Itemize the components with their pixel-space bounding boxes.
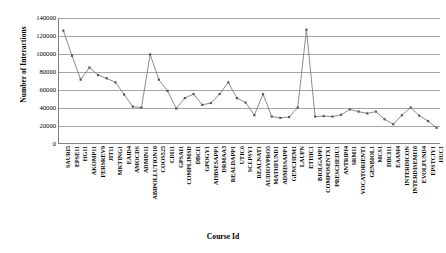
data-point-marker	[123, 93, 125, 95]
x-tick-label: LAUFN	[299, 146, 306, 230]
x-tick-label: AUDIOVPRO5	[265, 146, 272, 230]
x-tick-label: PRESCHEDU1	[334, 146, 341, 230]
data-point-marker	[349, 108, 351, 110]
x-tick-label: GPSAI1	[178, 146, 185, 230]
data-point-marker	[288, 116, 290, 118]
y-tick-label: 80000	[22, 69, 56, 76]
x-tick-label: MKTING1	[117, 146, 124, 230]
data-point-marker	[366, 112, 368, 114]
data-point-marker	[175, 107, 177, 109]
data-point-marker	[210, 102, 212, 104]
data-point-marker	[383, 118, 385, 120]
data-point-marker	[114, 81, 116, 83]
x-tick-label: GENCHEM1	[291, 146, 298, 230]
x-tick-label: EPSE11	[74, 146, 81, 230]
data-point-marker	[236, 97, 238, 99]
data-point-marker	[71, 55, 73, 57]
data-point-marker	[88, 66, 90, 68]
x-tick-label: COOS525	[160, 146, 167, 230]
data-point-marker	[253, 114, 255, 116]
data-point-marker	[149, 53, 151, 55]
data-point-marker	[357, 111, 359, 113]
x-tick-label: SRM11	[351, 146, 358, 230]
y-tick-label: 100000	[22, 51, 56, 58]
data-point-marker	[271, 115, 273, 117]
data-point-marker	[192, 93, 194, 95]
data-point-marker	[340, 114, 342, 116]
x-tick-label: SCI.PSY1	[247, 146, 254, 230]
x-tick-label: UTIC6	[239, 146, 246, 230]
x-tick-label: EAAM4	[395, 146, 402, 230]
x-tick-label: JIT11	[108, 146, 115, 230]
data-point-marker	[392, 123, 394, 125]
x-tick-label: ADMIN11	[143, 146, 150, 230]
x-tick-label: EVOLFUND4	[421, 146, 428, 230]
x-tick-label: MCS1	[377, 146, 384, 230]
x-tick-label: REALNAT1	[256, 146, 263, 230]
y-tick-label: 20000	[22, 123, 56, 130]
chart-container: Number of Interactions 02000040000600008…	[0, 0, 446, 253]
x-tick-label: COMPOSENTX1	[325, 146, 332, 230]
x-tick-label: MATHFUND1	[273, 146, 280, 230]
data-point-marker	[323, 115, 325, 117]
data-point-marker	[201, 104, 203, 106]
x-tick-label: COMPLIMSD	[186, 146, 193, 230]
x-tick-label: ABIPOLLUTION10	[152, 146, 159, 230]
x-tick-label: HG11	[82, 146, 89, 230]
data-point-marker	[227, 81, 229, 83]
data-point-marker	[245, 102, 247, 104]
data-point-marker	[401, 114, 403, 116]
data-point-marker	[158, 79, 160, 81]
x-axis-tick-labels: SAURI5EPSE11HG11AKOMP11FERSREV9JIT11MKTI…	[58, 146, 440, 230]
y-tick-label: 140000	[22, 15, 56, 22]
data-point-marker	[436, 127, 438, 129]
x-tick-label: ADMISSAPP1	[282, 146, 289, 230]
x-tick-label: REALDAPP1	[230, 146, 237, 230]
plot-area	[58, 18, 440, 144]
x-tick-label: SAURI5	[65, 146, 72, 230]
y-tick-label: 60000	[22, 87, 56, 94]
x-tick-label: AHBSESAPP1	[213, 146, 220, 230]
x-axis-title: Course Id	[0, 232, 446, 241]
x-tick-label: INTERDISEMI10	[412, 146, 419, 230]
x-tick-label: DRMAA3	[221, 146, 228, 230]
x-tick-label: AKOMP11	[91, 146, 98, 230]
data-point-marker	[314, 115, 316, 117]
data-point-marker	[184, 97, 186, 99]
x-tick-label: BIOLGAPP1	[317, 146, 324, 230]
data-point-marker	[132, 106, 134, 108]
x-tick-label: DBCI1	[195, 146, 202, 230]
x-tick-label: HUC1	[438, 146, 445, 230]
y-tick-label: 0	[22, 141, 56, 148]
series-polyline	[63, 30, 436, 128]
data-point-marker	[279, 117, 281, 119]
x-tick-label: EAID4	[126, 146, 133, 230]
x-tick-label: ANTRIPI4	[343, 146, 350, 230]
data-point-marker	[262, 93, 264, 95]
x-tick-label: GPOGY1	[204, 146, 211, 230]
data-series-line	[59, 18, 440, 144]
x-tick-label: VOCATORIENT1	[360, 146, 367, 230]
data-point-marker	[410, 106, 412, 108]
data-point-marker	[106, 77, 108, 79]
y-tick-label: 40000	[22, 105, 56, 112]
x-tick-label: GENBIOL1	[369, 146, 376, 230]
data-point-marker	[427, 120, 429, 122]
y-tick-label: 120000	[22, 33, 56, 40]
x-tick-label: EPSTCIY1	[430, 146, 437, 230]
x-tick-label: INTERDICON	[404, 146, 411, 230]
data-point-marker	[305, 29, 307, 31]
data-point-marker	[331, 115, 333, 117]
x-tick-label: FERSREV9	[100, 146, 107, 230]
data-point-marker	[418, 115, 420, 117]
data-point-marker	[140, 106, 142, 108]
x-tick-label: CDI11	[169, 146, 176, 230]
data-point-marker	[219, 93, 221, 95]
y-axis-tick-labels: 020000400006000080000100000120000140000	[22, 18, 56, 144]
data-point-marker	[62, 30, 64, 32]
x-tick-label: ETHIC1	[308, 146, 315, 230]
x-tick-label: DBCI11	[386, 146, 393, 230]
data-point-marker	[375, 111, 377, 113]
data-point-marker	[297, 106, 299, 108]
x-tick-label: AMOCDS	[134, 146, 141, 230]
